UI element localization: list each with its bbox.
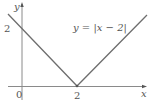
x-axis-label: x [141,89,147,99]
x-tick-label-2: 2 [74,91,80,101]
origin-label: 0 [16,90,22,100]
vertex-point [76,85,79,88]
function-plot [0,0,149,104]
equation-label: y = |x − 2| [73,23,127,33]
y-axis-arrow-icon [20,2,23,7]
y-tick-label-2: 2 [4,24,10,34]
y-axis-label: y [14,2,20,12]
